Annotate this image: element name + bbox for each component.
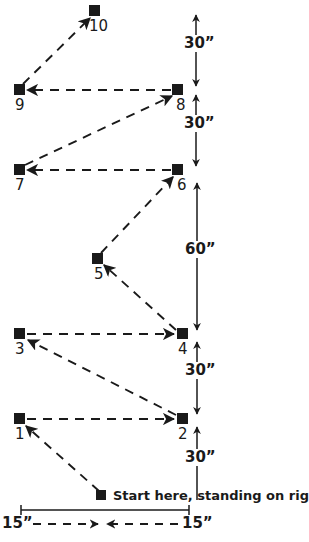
dimension-label-30-top: 30” <box>182 35 217 52</box>
marker-label-8: 8 <box>176 98 186 113</box>
dimension-label-30-second: 30” <box>182 115 217 132</box>
marker-square-7 <box>14 164 25 175</box>
marker-square-8 <box>172 84 183 95</box>
marker-square-4 <box>177 328 188 339</box>
dimension-label-15-left: 15” <box>2 516 33 531</box>
marker-square-1 <box>14 413 25 424</box>
marker-square-10 <box>89 5 100 16</box>
marker-label-4: 4 <box>178 342 188 357</box>
marker-square-2 <box>177 413 188 424</box>
marker-label-7: 7 <box>15 178 25 193</box>
dimension-label-30-bottom: 30” <box>183 449 218 466</box>
marker-label-9: 9 <box>15 98 25 113</box>
marker-label-3: 3 <box>15 342 25 357</box>
diagram-svg <box>0 0 309 542</box>
dimension-label-30-third: 30” <box>183 362 218 379</box>
bottom-width-bracket <box>21 505 189 515</box>
route-arrow-5-to-6 <box>101 177 173 253</box>
route-arrow-9-to-10 <box>23 18 90 84</box>
marker-label-2: 2 <box>178 427 188 442</box>
marker-square-5 <box>92 253 103 264</box>
marker-label-1: 1 <box>15 427 25 442</box>
marker-square-6 <box>172 164 183 175</box>
route-arrow-start-to-1 <box>26 426 99 491</box>
marker-label-6: 6 <box>177 178 187 193</box>
figure-canvas: 10 9 8 7 6 5 3 4 1 2 30” 30” 60” 30” 30”… <box>0 0 309 542</box>
route-arrow-2-to-3 <box>28 340 176 415</box>
marker-square-3 <box>14 328 25 339</box>
dimension-label-60: 60” <box>183 241 218 258</box>
marker-label-5: 5 <box>94 267 104 282</box>
marker-square-9 <box>14 84 25 95</box>
dimension-label-15-right: 15” <box>182 516 213 531</box>
start-caption: Start here, standing on right foot. <box>113 489 309 502</box>
marker-square-start <box>96 490 106 500</box>
marker-label-10: 10 <box>89 19 108 34</box>
route-arrow-4-to-5 <box>104 265 176 330</box>
route-arrow-7-to-8 <box>25 96 172 165</box>
